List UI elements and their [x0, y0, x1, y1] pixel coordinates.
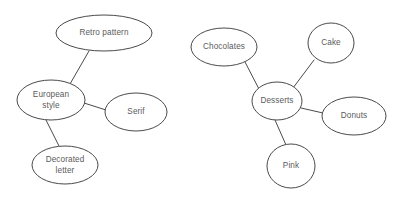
edge-desserts-donuts — [301, 108, 323, 113]
node-label-european-style: European — [33, 90, 70, 99]
graph-node-desserts[interactable]: Desserts — [252, 82, 302, 120]
graph-node-cake[interactable]: Cake — [308, 23, 354, 63]
diagram-canvas: Retro patternEuropeanstyleSerifDecorated… — [0, 0, 400, 199]
node-label-serif: Serif — [127, 107, 145, 116]
node-label-chocolates: Chocolates — [203, 42, 245, 51]
node-label-cake: Cake — [321, 38, 341, 47]
node-label-desserts: Desserts — [260, 96, 293, 105]
graph-node-serif[interactable]: Serif — [105, 93, 167, 131]
edge-european-retro — [70, 51, 89, 84]
node-label-retro-pattern: Retro pattern — [79, 28, 128, 37]
node-link-graph: Retro patternEuropeanstyleSerifDecorated… — [0, 0, 400, 199]
edge-desserts-chocolates — [245, 62, 259, 89]
edge-desserts-cake — [293, 60, 314, 88]
graph-node-donuts[interactable]: Donuts — [322, 97, 386, 135]
edge-european-decorated — [46, 120, 59, 146]
node-label-decorated-letter: letter — [56, 166, 75, 175]
graph-node-european-style[interactable]: Europeanstyle — [17, 80, 85, 120]
graph-node-retro-pattern[interactable]: Retro pattern — [56, 15, 152, 51]
graph-node-pink[interactable]: Pink — [267, 144, 315, 188]
node-label-european-style: style — [42, 101, 60, 110]
nodes-layer: Retro patternEuropeanstyleSerifDecorated… — [17, 15, 386, 188]
edge-european-serif — [84, 103, 106, 110]
edge-desserts-pink — [275, 120, 286, 145]
node-label-donuts: Donuts — [341, 111, 368, 120]
graph-node-decorated-letter[interactable]: Decoratedletter — [32, 146, 98, 184]
node-label-pink: Pink — [283, 161, 300, 170]
graph-node-chocolates[interactable]: Chocolates — [191, 28, 257, 66]
node-label-decorated-letter: Decorated — [46, 155, 85, 164]
